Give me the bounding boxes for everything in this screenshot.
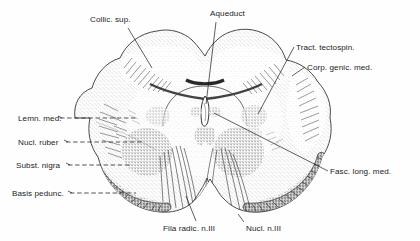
tegmental-field-left — [146, 106, 170, 126]
figure-canvas: Collic. sup. Aqueduct Tract. tectospin. … — [0, 0, 420, 241]
label-nucl-ruber: Nucl. ruber — [18, 139, 58, 147]
label-corp-genic-med: Corp. genic. med. — [307, 64, 372, 72]
label-basis-pedunc: Basis pedunc. — [12, 190, 64, 198]
label-tract-tectospin: Tract. tectospin. — [296, 44, 355, 52]
label-lemn-med: Lemn. med. — [18, 115, 62, 123]
mlf-left — [190, 107, 202, 117]
leader-ticks — [58, 116, 72, 193]
label-fasc-long-med: Fasc. long. med. — [330, 168, 391, 176]
red-nucleus-left — [122, 128, 172, 176]
midbrain-section-body — [75, 29, 331, 218]
label-collic-sup: Collic. sup. — [90, 16, 131, 24]
label-aqueduct: Aqueduct — [210, 10, 245, 18]
midbrain-section-illustration — [0, 0, 420, 241]
label-nucl-n3: Nucl. n.III — [246, 225, 281, 233]
label-subst-nigra: Subst. nigra — [16, 162, 60, 170]
label-fila-radic: Fila radic. n.III — [163, 225, 215, 233]
tectospinal-tract — [241, 105, 267, 127]
leader-nucl-n3 — [238, 214, 244, 222]
